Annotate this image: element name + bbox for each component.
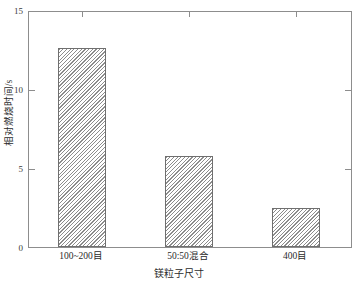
y-axis-title: 相对燃烧时间/s [4, 48, 14, 178]
x-axis-title: 镁粒子尺寸 [0, 268, 357, 280]
y-tick-label-15: 15 [14, 7, 23, 16]
bar-chart-figure: 15 10 5 0 相对燃烧时间/s 100~200目 50:50混合 400目… [0, 0, 357, 287]
plot-area [28, 11, 352, 248]
y-tick-right-10 [345, 90, 351, 91]
x-tick-top-2 [189, 12, 190, 17]
bar-100-200-mesh [58, 48, 106, 247]
bar-50-50-mixed [165, 156, 213, 247]
y-tick-10 [29, 90, 35, 91]
y-tick-5 [29, 169, 35, 170]
y-tick-right-5 [345, 169, 351, 170]
bar-400-mesh [272, 208, 320, 247]
y-tick-label-5: 5 [19, 165, 24, 174]
x-tick-label-3: 400目 [227, 251, 357, 262]
x-tick-top-3 [296, 12, 297, 17]
x-tick-top-1 [82, 12, 83, 17]
y-tick-label-10: 10 [14, 86, 23, 95]
